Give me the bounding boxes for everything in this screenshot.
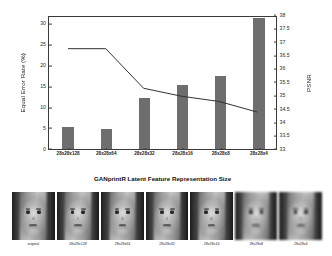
- thumbnail-strip: original28x28x12828x28x6428x28x3228x28x1…: [12, 192, 322, 240]
- x-tick-28x28x64: 28x28x64: [96, 152, 116, 157]
- thumbnail-cell: 28x28x8: [235, 192, 278, 240]
- face-thumbnail-image: [57, 192, 100, 240]
- y-tick-right: 33.5: [276, 133, 290, 138]
- chart-area: Equal Error Rate (%) PSNR 051015202530 3…: [0, 0, 332, 186]
- y-tick-left: 10: [40, 105, 49, 110]
- thumbnail-cell: 28x28x64: [101, 192, 144, 240]
- x-tick-28x28x128: 28x28x128: [57, 152, 80, 157]
- x-axis-title: GANprintR Latent Feature Representation …: [48, 175, 277, 182]
- y-axis-right-title-text: PSNR: [305, 74, 312, 92]
- x-tick-28x28x16: 28x28x16: [172, 152, 192, 157]
- y-axis-right-title: PSNR: [303, 16, 313, 150]
- y-tick-right: 36: [276, 66, 285, 71]
- y-tick-right: 35.5: [276, 79, 290, 84]
- psnr-line-series: [49, 17, 276, 149]
- thumbnail-caption: 28x28x128: [57, 243, 100, 247]
- face-thumbnail-image: [190, 192, 233, 240]
- thumbnail-caption: 28x28x8: [235, 243, 278, 247]
- x-tick-28x28x4: 28x28x4: [250, 152, 268, 157]
- thumbnail-caption: 28x28x4: [279, 243, 322, 247]
- y-tick-left: 20: [40, 63, 49, 68]
- psnr-polyline: [68, 49, 257, 112]
- face-thumbnail-image: [101, 192, 144, 240]
- y-tick-left: 15: [40, 84, 49, 89]
- y-tick-left: 30: [40, 21, 49, 26]
- thumbnail-cell: 28x28x16: [190, 192, 233, 240]
- plot-frame: 051015202530 3333.53434.53535.53636.5373…: [48, 16, 277, 150]
- thumbnail-caption: 28x28x32: [146, 243, 189, 247]
- x-tick-28x28x8: 28x28x8: [212, 152, 230, 157]
- y-tick-right: 37: [276, 39, 285, 44]
- x-tick-28x28x32: 28x28x32: [134, 152, 154, 157]
- face-thumbnail-image: [146, 192, 189, 240]
- y-tick-left: 25: [40, 42, 49, 47]
- y-tick-right: 35: [276, 93, 285, 98]
- y-tick-right: 33: [276, 146, 285, 151]
- y-axis-left-title: Equal Error Rate (%): [17, 16, 27, 150]
- thumbnail-cell: 28x28x32: [146, 192, 189, 240]
- thumbnail-cell: original: [12, 192, 55, 240]
- face-thumbnail-image: [235, 192, 278, 240]
- thumbnail-caption: original: [12, 243, 55, 247]
- thumbnail-caption: 28x28x16: [190, 243, 233, 247]
- face-thumbnail-image: [12, 192, 55, 240]
- y-tick-right: 37.5: [276, 26, 290, 31]
- thumbnail-cell: 28x28x128: [57, 192, 100, 240]
- figure-panel: Equal Error Rate (%) PSNR 051015202530 3…: [0, 0, 332, 256]
- y-tick-right: 34.5: [276, 106, 290, 111]
- y-tick-right: 38: [276, 12, 285, 17]
- y-tick-right: 36.5: [276, 53, 290, 58]
- y-tick-right: 34: [276, 120, 285, 125]
- face-thumbnail-image: [279, 192, 322, 240]
- thumbnail-caption: 28x28x64: [101, 243, 144, 247]
- y-axis-left-title-text: Equal Error Rate (%): [19, 53, 26, 112]
- thumbnail-cell: 28x28x4: [279, 192, 322, 240]
